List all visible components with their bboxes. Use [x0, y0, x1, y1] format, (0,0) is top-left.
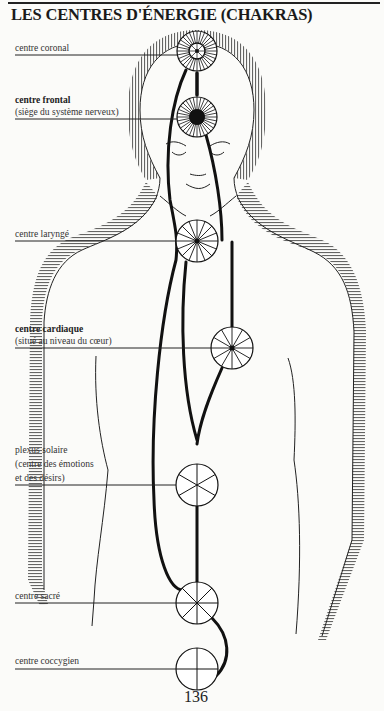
chakra-plexus	[176, 464, 218, 506]
chakra-sacre	[176, 582, 218, 624]
chakra-diagram	[0, 0, 384, 711]
chakra-coronal	[177, 31, 217, 71]
chakra-cardiaque	[211, 327, 253, 369]
chakra-larynge	[176, 220, 218, 262]
chakra-coccygien	[176, 648, 218, 690]
chakra-frontal	[177, 97, 217, 137]
